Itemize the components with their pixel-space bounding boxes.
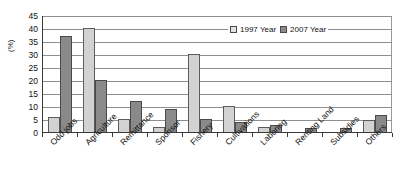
bar-2007: [200, 119, 212, 132]
x-axis-tick: [42, 133, 43, 137]
bar-1997: [153, 127, 165, 132]
bar-2007: [130, 101, 142, 132]
y-axis-tick-label: 5: [20, 116, 38, 125]
bar-group: [183, 16, 218, 132]
y-axis-tick-label: 45: [20, 12, 38, 21]
y-axis-tick-label: 40: [20, 25, 38, 34]
bar-2007: [305, 128, 317, 132]
y-axis-tick-label: 25: [20, 64, 38, 73]
x-axis-tick: [252, 133, 253, 137]
bar-series-container: [43, 16, 392, 132]
bar-group: [113, 16, 148, 132]
legend-label-2007: 2007 Year: [290, 25, 326, 34]
x-axis-tick: [217, 133, 218, 137]
bar-group: [357, 16, 392, 132]
x-axis-tick: [287, 133, 288, 137]
legend: 1997 Year 2007 Year: [228, 23, 328, 35]
bar-1997: [188, 54, 200, 132]
legend-item-1997: 1997 Year: [230, 25, 276, 34]
legend-swatch-2007-icon: [280, 26, 287, 33]
bar-2007: [235, 122, 247, 132]
y-axis-tick-label: 30: [20, 51, 38, 60]
bar-1997: [363, 120, 375, 132]
bar-2007: [165, 109, 177, 132]
y-axis-tick-label: 15: [20, 90, 38, 99]
bar-group: [78, 16, 113, 132]
y-axis-tick-label: 0: [20, 129, 38, 138]
bar-2007: [270, 125, 282, 132]
x-axis-tick: [182, 133, 183, 137]
x-axis-tick: [77, 133, 78, 137]
y-axis-tick-label: 20: [20, 77, 38, 86]
legend-item-2007: 2007 Year: [280, 25, 326, 34]
bar-1997: [48, 117, 60, 132]
bar-group: [43, 16, 78, 132]
bar-1997: [258, 127, 270, 132]
x-axis-tick: [322, 133, 323, 137]
x-axis-tick: [392, 133, 393, 137]
bar-2007: [340, 128, 352, 132]
y-axis-tick-label: 35: [20, 38, 38, 47]
bar-1997: [223, 106, 235, 132]
bar-1997: [83, 28, 95, 132]
legend-label-1997: 1997 Year: [240, 25, 276, 34]
x-axis-tick: [147, 133, 148, 137]
x-axis-tick: [112, 133, 113, 137]
x-axis-ticks: [42, 133, 392, 137]
legend-swatch-1997-icon: [230, 26, 237, 33]
bar-chart: (%) 454035302520151050 Odd jobsAgricultu…: [0, 0, 406, 195]
plot-area: [42, 16, 392, 133]
bar-2007: [375, 115, 387, 132]
bar-1997: [118, 119, 130, 132]
bar-2007: [95, 80, 107, 132]
bar-2007: [60, 36, 72, 132]
x-axis-tick: [357, 133, 358, 137]
y-axis-tick-label: 10: [20, 103, 38, 112]
bar-group: [148, 16, 183, 132]
